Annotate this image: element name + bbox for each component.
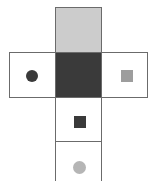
net-cell-top[interactable] xyxy=(55,7,102,52)
dark-square-marker-icon xyxy=(74,116,86,128)
net-cell-right[interactable] xyxy=(101,52,148,98)
net-cell-left[interactable] xyxy=(9,52,56,98)
light-circle-marker-icon xyxy=(73,161,86,174)
net-cell-lower[interactable] xyxy=(55,98,102,142)
net-cell-bottom[interactable] xyxy=(55,141,102,181)
cube-net-diagram xyxy=(0,0,157,181)
net-cell-center[interactable] xyxy=(55,52,102,98)
gray-square-marker-icon xyxy=(121,70,133,82)
dark-circle-marker-icon xyxy=(26,70,38,82)
